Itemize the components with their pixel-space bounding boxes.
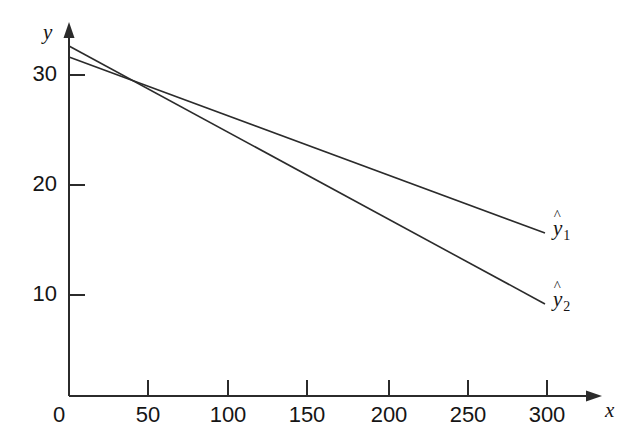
hat-accent-icon: ^ xyxy=(554,279,561,294)
x-axis-label: x xyxy=(605,400,614,421)
x-tick-label-150: 150 xyxy=(277,404,337,426)
y-axis-label: y xyxy=(43,22,52,43)
y-hat-1-base-group: ^y xyxy=(553,218,562,239)
chart-figure: y x 30 20 10 0 50 100 150 200 250 300 ^y… xyxy=(0,0,629,445)
series-line-y-hat-2 xyxy=(69,46,545,304)
series-label-y-hat-2: ^y 2 xyxy=(553,289,570,314)
y-tick-label-10: 10 xyxy=(0,283,57,305)
x-tick-label-0: 0 xyxy=(44,404,74,426)
y-axis-arrow-icon xyxy=(64,22,75,38)
x-tick-label-200: 200 xyxy=(359,404,419,426)
chart-plot-area xyxy=(0,0,629,445)
series-line-y-hat-1 xyxy=(69,57,545,233)
y-hat-2-base-group: ^y xyxy=(553,289,562,310)
x-tick-label-300: 300 xyxy=(517,404,577,426)
x-tick-label-100: 100 xyxy=(198,404,258,426)
y-hat-1-subscript: 1 xyxy=(563,228,570,243)
y-tick-label-20: 20 xyxy=(0,173,57,195)
series-label-y-hat-1: ^y 1 xyxy=(553,218,570,243)
y-tick-label-30: 30 xyxy=(0,63,57,85)
x-tick-label-50: 50 xyxy=(123,404,173,426)
x-tick-label-250: 250 xyxy=(438,404,498,426)
hat-accent-icon: ^ xyxy=(554,208,561,223)
y-hat-2-subscript: 2 xyxy=(563,299,570,314)
x-axis-arrow-icon xyxy=(586,391,602,402)
